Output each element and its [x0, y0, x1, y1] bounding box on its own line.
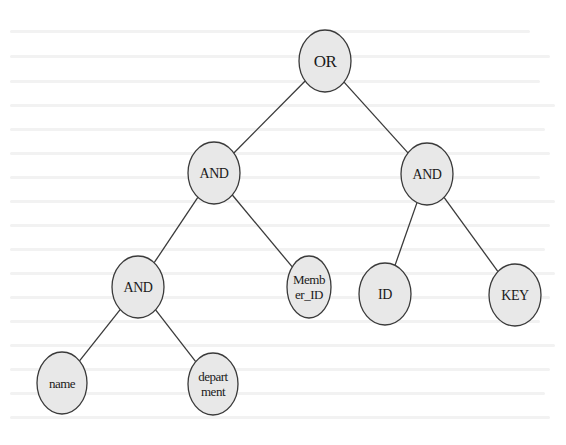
edge-or-to-and-right [344, 82, 408, 153]
node-label: name [49, 376, 76, 391]
node-label: ment [201, 384, 226, 399]
edge-and-bottom-to-name [80, 310, 121, 361]
node-id: ID [359, 263, 411, 325]
node-label: AND [413, 167, 442, 182]
node-key: KEY [489, 264, 541, 326]
edge-and-left-to-member-id [232, 195, 292, 267]
node-label: AND [200, 166, 229, 181]
node-label: OR [314, 52, 338, 71]
expression-tree-diagram: ORANDANDANDMember_IDIDKEYnamedepartment [0, 0, 566, 445]
tree-nodes: ORANDANDANDMember_IDIDKEYnamedepartment [37, 30, 541, 415]
node-and-bottom: AND [112, 256, 164, 318]
tree-edges [80, 81, 498, 362]
node-label: er_ID [295, 287, 323, 302]
node-label: Memb [293, 272, 325, 287]
node-label: ID [378, 287, 392, 302]
edge-and-right-to-id [395, 203, 417, 266]
node-or: OR [299, 30, 351, 92]
node-label: depart [198, 369, 228, 384]
node-label: AND [124, 280, 153, 295]
edge-and-left-to-and-bottom [154, 197, 198, 262]
node-label: KEY [501, 288, 529, 303]
edge-or-to-and-left [234, 81, 305, 153]
node-member-id: Member_ID [287, 256, 331, 318]
edge-and-bottom-to-department [156, 310, 196, 362]
node-and-left: AND [188, 142, 240, 204]
node-and-right: AND [401, 143, 453, 205]
node-name: name [37, 352, 87, 414]
node-department: department [188, 353, 238, 415]
edge-and-right-to-key [444, 197, 498, 271]
